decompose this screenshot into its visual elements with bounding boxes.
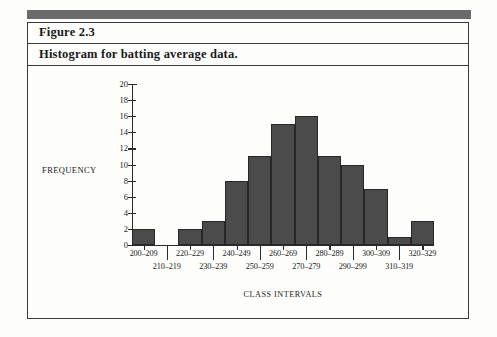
x-tick-label: 260–269 [269,249,297,258]
y-tick-label: 2 [104,224,128,234]
figure-number-row: Figure 2.3 [28,23,468,44]
histogram-bar [318,156,341,245]
x-tick-label: 220–229 [176,249,204,258]
histogram-bar [341,165,364,246]
decorative-header-band [27,10,471,19]
histogram-bar [132,229,155,245]
y-tick-label: 14 [104,127,128,137]
histogram-bar [248,156,271,245]
histogram-bar [271,124,294,245]
histogram-bar [364,189,387,245]
figure-page: Figure 2.3 Histogram for batting average… [0,0,497,337]
histogram-bar [411,221,434,245]
histogram-chart: 02468101214161820 [132,84,434,245]
histogram-bar [388,237,411,245]
y-tick-label: 18 [104,95,128,105]
x-label-separator [260,247,261,260]
y-tick-label: 4 [104,208,128,218]
x-label-separator [167,247,168,260]
x-tick-label: 200–209 [130,249,158,258]
x-tick-label: 320–329 [408,249,436,258]
x-axis-tick-labels: 200–209210–219220–229230–239240–249250–2… [132,249,434,289]
y-tick [128,245,136,246]
y-tick-label: 16 [104,111,128,121]
x-tick-label: 240–249 [223,249,251,258]
histogram-bar [202,221,225,245]
histogram-bar [225,181,248,245]
y-tick-label: 20 [104,79,128,89]
plot-area: FREQUENCY 02468101214161820 200–209210–2… [28,66,468,324]
x-label-separator [306,247,307,260]
x-label-separator [353,247,354,260]
y-tick-label: 8 [104,176,128,186]
x-tick-label: 230–239 [199,262,227,271]
x-tick-label: 280–289 [315,249,343,258]
x-tick-label: 300–309 [362,249,390,258]
figure-title: Histogram for batting average data. [39,47,238,61]
histogram-bar [295,116,318,245]
bar-group [132,84,434,245]
y-tick-label: 6 [104,192,128,202]
x-tick-label: 210–219 [153,262,181,271]
x-label-separator [399,247,400,260]
x-axis-title: CLASS INTERVALS [132,290,434,299]
y-axis-title: FREQUENCY [42,165,97,175]
x-label-separator [213,247,214,260]
x-tick-label: 270–279 [292,262,320,271]
figure-number: Figure 2.3 [39,25,95,39]
figure-box: Figure 2.3 Histogram for batting average… [27,22,469,319]
y-tick-label: 10 [104,160,128,170]
x-tick-label: 310–319 [385,262,413,271]
figure-title-row: Histogram for batting average data. [28,44,468,66]
x-tick-label: 290–299 [339,262,367,271]
x-tick-label: 250–259 [246,262,274,271]
y-tick-label: 0 [104,240,128,250]
y-tick-label: 12 [104,143,128,153]
histogram-bar [178,229,201,245]
